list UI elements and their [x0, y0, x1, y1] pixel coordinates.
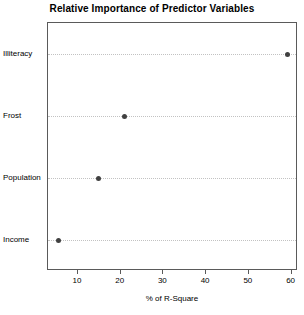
data-point	[96, 176, 101, 181]
y-axis-label: Income	[3, 235, 45, 244]
plot-area	[47, 22, 297, 270]
grid-line	[48, 54, 296, 55]
data-point	[122, 114, 127, 119]
x-axis-tick	[120, 270, 121, 274]
y-axis-label: Frost	[3, 111, 45, 120]
y-axis-label: Illiteracy	[3, 49, 45, 58]
data-point	[285, 52, 290, 57]
x-axis-title: % of R-Square	[47, 294, 297, 304]
y-axis-label: Population	[3, 173, 45, 182]
x-axis-tick	[77, 270, 78, 274]
x-axis: 102030405060	[47, 270, 297, 292]
x-axis-tick	[248, 270, 249, 274]
x-axis-tick-label: 40	[193, 276, 217, 286]
plot-inner	[48, 23, 296, 269]
dotchart-figure: Relative Importance of Predictor Variabl…	[0, 0, 304, 315]
x-axis-tick-label: 10	[65, 276, 89, 286]
grid-line	[48, 116, 296, 117]
x-axis-tick-label: 20	[108, 276, 132, 286]
chart-title: Relative Importance of Predictor Variabl…	[0, 3, 304, 15]
x-axis-tick	[291, 270, 292, 274]
x-axis-tick-label: 50	[236, 276, 260, 286]
y-axis-category-labels: IlliteracyFrostPopulationIncome	[0, 22, 44, 270]
x-axis-tick-label: 30	[150, 276, 174, 286]
grid-line	[48, 240, 296, 241]
grid-line	[48, 178, 296, 179]
x-axis-tick	[162, 270, 163, 274]
x-axis-tick-label: 60	[279, 276, 303, 286]
data-point	[56, 238, 61, 243]
x-axis-tick	[205, 270, 206, 274]
